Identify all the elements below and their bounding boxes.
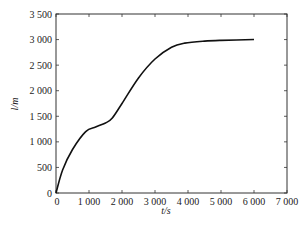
y-tick-label: 2 500 (30, 60, 53, 71)
x-tick-label: 4 000 (177, 196, 200, 207)
y-tick-label: 1 000 (30, 136, 53, 147)
x-tick-label: 2 000 (111, 196, 134, 207)
y-axis-label: l/m (9, 98, 20, 111)
x-tick-label: 0 (55, 196, 60, 207)
y-tick-label: 500 (37, 162, 52, 173)
x-tick-label: 7 000 (276, 196, 299, 207)
axis-ticks: 01 0002 0003 0004 0005 0006 0007 0000500… (30, 9, 299, 208)
plot-frame (56, 14, 287, 193)
y-tick-label: 3 500 (30, 9, 53, 20)
x-tick-label: 5 000 (210, 196, 233, 207)
line-chart: 01 0002 0003 0004 0005 0006 0007 0000500… (0, 0, 306, 226)
x-tick-label: 1 000 (78, 196, 101, 207)
x-axis-label: t/s (161, 205, 171, 216)
x-tick-label: 6 000 (243, 196, 266, 207)
y-tick-label: 3 000 (30, 34, 53, 45)
y-tick-label: 1 500 (30, 111, 53, 122)
data-line (56, 40, 254, 193)
y-tick-label: 2 000 (30, 85, 53, 96)
y-tick-label: 0 (47, 188, 52, 199)
